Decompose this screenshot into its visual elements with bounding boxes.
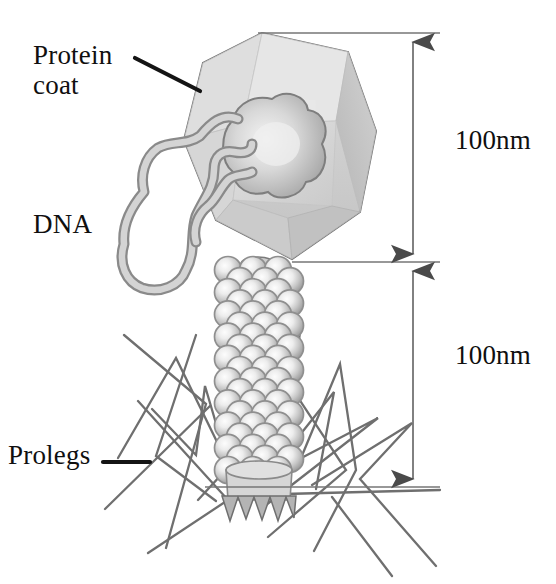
baseplate <box>222 461 296 521</box>
label-dna: DNA <box>33 209 92 239</box>
proleg-line <box>124 335 206 548</box>
tail-sheath <box>215 257 304 484</box>
label-protein-coat: Protein coat <box>33 40 112 100</box>
proleg-line <box>284 490 440 494</box>
dimension-label-tail-height: 100nm <box>455 340 531 370</box>
dna-core-blob <box>223 94 325 198</box>
label-prolegs: Prolegs <box>8 440 90 470</box>
leader-protein-coat <box>135 58 200 91</box>
dimension-label-head-height: 100nm <box>455 125 531 155</box>
proleg-line <box>332 497 392 576</box>
baseplate-spikes <box>222 496 296 521</box>
bacteriophage-figure: Protein coat DNA Prolegs 100nm 100nm <box>0 0 556 584</box>
proleg-line <box>312 423 436 566</box>
